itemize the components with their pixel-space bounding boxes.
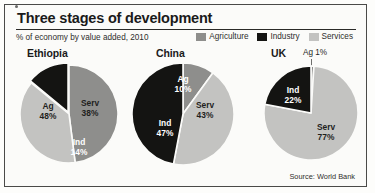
slice-name-ethiopia-ind: Ind: [73, 137, 86, 147]
infographic-frame: Three stages of development % of economy…: [4, 4, 367, 187]
source-attribution: Source: World Bank: [289, 172, 355, 181]
slice-value-ethiopia-ag: 48%: [40, 111, 57, 121]
slice-value-china-serv: 43%: [197, 110, 214, 120]
pie-chart-china: Ag 10% Serv 43% Ind 47%: [131, 62, 235, 166]
legend-label-industry: Industry: [270, 32, 299, 41]
slice-value-china-ind: 47%: [157, 128, 174, 138]
page-title: Three stages of development: [17, 10, 212, 26]
print-speck: [15, 5, 18, 8]
slice-label-ethiopia-services: Serv 38%: [73, 99, 107, 118]
slice-name-uk-ind: Ind: [287, 85, 300, 95]
country-label-china: China: [156, 47, 185, 59]
legend-swatch-industry: [257, 33, 267, 41]
slice-label-ethiopia-agriculture: Ag 48%: [31, 102, 65, 121]
slice-label-uk-services: Serv 77%: [308, 123, 344, 142]
legend-item-industry: Industry: [257, 32, 299, 41]
legend-swatch-services: [309, 33, 319, 41]
slice-value-ethiopia-ind: 14%: [71, 147, 88, 157]
legend-item-agriculture: Agriculture: [196, 32, 248, 41]
slice-name-ethiopia-serv: Serv: [81, 98, 99, 108]
pie-chart-ethiopia: Ag 48% Serv 38% Ind 14%: [19, 64, 119, 164]
slice-label-china-services: Serv 43%: [188, 101, 222, 120]
slice-value-uk-ind: 22%: [285, 95, 302, 105]
legend-swatch-agriculture: [196, 33, 206, 41]
slice-value-uk-serv: 77%: [318, 132, 335, 142]
slice-label-china-agriculture: Ag 10%: [168, 75, 198, 94]
slice-label-uk-industry: Ind 22%: [277, 86, 309, 105]
pie-svg-uk: [263, 65, 359, 161]
callout-uk-agriculture: Ag 1%: [303, 48, 327, 57]
pie-chart-uk: Ind 22% Serv 77%: [263, 65, 359, 161]
slice-name-china-ind: Ind: [159, 118, 172, 128]
slice-name-china-serv: Serv: [196, 100, 214, 110]
country-label-uk: UK: [271, 47, 286, 59]
legend-label-agriculture: Agriculture: [209, 32, 248, 41]
slice-value-china-ag: 10%: [175, 84, 192, 94]
slice-name-ethiopia-ag: Ag: [42, 101, 53, 111]
chart-legend: Agriculture Industry Services: [196, 32, 353, 41]
legend-item-services: Services: [309, 32, 353, 41]
title-divider: [16, 29, 356, 30]
slice-value-ethiopia-serv: 38%: [82, 108, 99, 118]
slice-label-china-industry: Ind 47%: [149, 119, 181, 138]
chart-subtitle: % of economy by value added, 2010: [16, 33, 148, 42]
legend-label-services: Services: [322, 32, 353, 41]
slice-name-china-ag: Ag: [177, 74, 188, 84]
country-label-ethiopia: Ethiopia: [27, 47, 68, 59]
slice-label-ethiopia-industry: Ind 14%: [64, 138, 94, 157]
slice-name-uk-serv: Serv: [317, 122, 335, 132]
